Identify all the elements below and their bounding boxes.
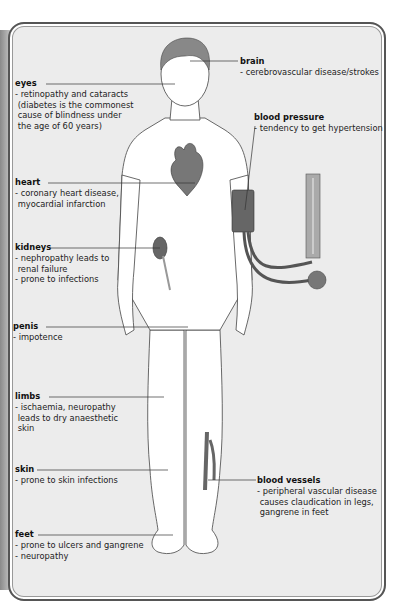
label-heart: heart - coronary heart disease, myocardi… (15, 177, 119, 209)
label-kidneys: kidneys - nephropathy leads to renal fai… (15, 242, 109, 285)
label-penis-title: penis (13, 321, 63, 332)
label-kidneys-title: kidneys (15, 242, 109, 253)
label-blood-pressure: blood pressure - tendency to get hyperte… (254, 112, 383, 134)
label-feet-title: feet (15, 529, 144, 540)
label-brain-desc: - cerebrovascular disease/strokes (240, 67, 379, 78)
label-blood-vessels-title: blood vessels (257, 475, 377, 486)
label-penis: penis - impotence (13, 321, 63, 343)
label-limbs: limbs - ischaemia, neuropathy leads to d… (15, 391, 118, 434)
label-eyes-title: eyes (15, 78, 134, 89)
label-blood-vessels: blood vessels - peripheral vascular dise… (257, 475, 377, 518)
label-limbs-title: limbs (15, 391, 118, 402)
label-blood-vessels-desc: - peripheral vascular disease causes cla… (257, 486, 377, 518)
label-penis-desc: - impotence (13, 332, 63, 343)
label-eyes-desc: - retinopathy and cataracts (diabetes is… (15, 89, 134, 132)
label-feet-desc: - prone to ulcers and gangrene - neuropa… (15, 540, 144, 562)
label-brain-title: brain (240, 56, 379, 67)
label-eyes: eyes - retinopathy and cataracts (diabet… (15, 78, 134, 132)
label-feet: feet - prone to ulcers and gangrene - ne… (15, 529, 144, 561)
label-skin-desc: - prone to skin infections (15, 475, 118, 486)
label-heart-desc: - coronary heart disease, myocardial inf… (15, 188, 119, 210)
label-limbs-desc: - ischaemia, neuropathy leads to dry ana… (15, 402, 118, 434)
label-brain: brain - cerebrovascular disease/strokes (240, 56, 379, 78)
label-blood-pressure-title: blood pressure (254, 112, 383, 123)
label-skin: skin - prone to skin infections (15, 464, 118, 486)
label-heart-title: heart (15, 177, 119, 188)
label-kidneys-desc: - nephropathy leads to renal failure - p… (15, 253, 109, 285)
label-blood-pressure-desc: - tendency to get hypertension (254, 123, 383, 134)
label-skin-title: skin (15, 464, 118, 475)
